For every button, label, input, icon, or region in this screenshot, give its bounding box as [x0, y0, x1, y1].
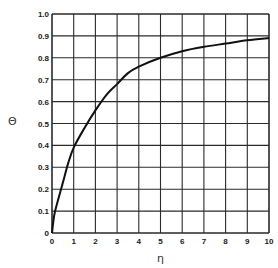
y-tick-label: 0.2	[38, 185, 50, 194]
x-tick-label: 10	[265, 237, 274, 246]
x-tick-label: 7	[202, 237, 207, 246]
y-tick-label: 0	[45, 229, 50, 238]
x-tick-label: 2	[93, 237, 98, 246]
x-tick-label: 3	[115, 237, 120, 246]
y-tick-label: 0.1	[38, 207, 50, 216]
x-axis-label: η	[157, 252, 164, 265]
y-tick-label: 0.8	[38, 54, 50, 63]
y-tick-label: 1.0	[38, 10, 50, 19]
y-axis-ticks: 00.10.20.30.40.50.60.70.80.91.0	[38, 10, 50, 238]
x-tick-label: 9	[245, 237, 250, 246]
y-tick-label: 0.7	[38, 76, 50, 85]
y-tick-label: 0.6	[38, 98, 50, 107]
x-tick-label: 6	[180, 237, 185, 246]
grid-lines	[52, 14, 269, 233]
x-tick-label: 8	[223, 237, 228, 246]
chart: 012345678910 00.10.20.30.40.50.60.70.80.…	[0, 0, 278, 268]
x-axis-ticks: 012345678910	[50, 237, 274, 246]
x-tick-label: 5	[158, 237, 163, 246]
y-axis-label: Θ	[8, 115, 17, 128]
y-tick-label: 0.9	[38, 32, 50, 41]
x-tick-label: 4	[137, 237, 142, 246]
x-tick-label: 0	[50, 237, 55, 246]
y-tick-label: 0.3	[38, 163, 50, 172]
y-tick-label: 0.4	[38, 141, 50, 150]
x-tick-label: 1	[71, 237, 76, 246]
y-tick-label: 0.5	[38, 120, 50, 129]
